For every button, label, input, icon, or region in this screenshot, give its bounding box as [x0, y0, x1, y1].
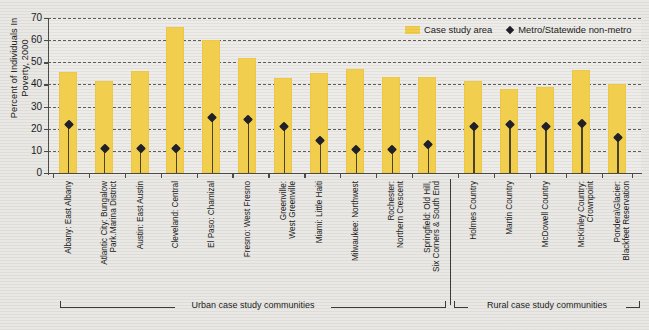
marker-stem — [320, 141, 321, 173]
x-tick-mark — [232, 173, 233, 178]
x-axis-line — [48, 173, 642, 174]
x-category-label: Milwaukee: Northwest — [351, 181, 360, 299]
bracket-cap — [445, 301, 446, 308]
marker-stem — [581, 123, 582, 173]
poverty-bar-chart-figure: Percent of Individuals In Poverty, 2000 … — [0, 0, 649, 330]
bracket-line — [454, 307, 468, 308]
group-separator — [450, 179, 451, 305]
legend-label-case-study-area: Case study area — [424, 24, 492, 35]
x-category-label: El Paso: Chamizal — [207, 181, 216, 299]
x-category-label: Cleveland: Central — [171, 181, 180, 299]
marker-stem — [248, 120, 249, 173]
x-tick-mark — [268, 173, 269, 178]
x-tick-mark — [304, 173, 305, 178]
x-category-label: Rochester: Northern Crescent — [387, 181, 406, 299]
bracket-line — [331, 307, 446, 308]
x-tick-mark — [458, 173, 459, 178]
y-tick-label: 50 — [12, 56, 42, 67]
x-tick-mark — [566, 173, 567, 178]
marker-stem — [617, 138, 618, 173]
x-tick-mark — [89, 173, 90, 178]
x-tick-mark — [161, 173, 162, 178]
group-bracket: Rural case study communities — [454, 300, 640, 314]
x-category-label: Austin: East Austin — [136, 181, 145, 299]
group-bracket: Urban case study communities — [60, 300, 446, 314]
x-tick-mark — [632, 173, 633, 178]
x-tick-mark — [340, 173, 341, 178]
x-category-label: McKinley Country: Crownpoint — [577, 181, 596, 299]
bracket-cap — [639, 301, 640, 308]
chart-legend: Case study area Metro/Statewide non-metr… — [405, 24, 631, 35]
marker-stem — [284, 127, 285, 174]
group-label: Urban case study communities — [179, 300, 327, 310]
x-category-label: McDowell Country — [541, 181, 550, 299]
gridline — [48, 40, 641, 41]
marker-stem — [545, 127, 546, 174]
legend-item-case-study-area: Case study area — [405, 24, 492, 35]
x-tick-mark — [494, 173, 495, 178]
diamond-marker-icon — [506, 25, 514, 33]
x-tick-mark — [53, 173, 54, 178]
bracket-line — [60, 307, 175, 308]
marker-stem — [509, 124, 510, 173]
x-category-label: Miami: Little Haiti — [315, 181, 324, 299]
marker-stem — [212, 118, 213, 173]
x-category-label: Greenville: West Greenville — [279, 181, 298, 299]
group-label: Rural case study communities — [472, 300, 622, 310]
x-tick-mark — [376, 173, 377, 178]
x-category-label: Albany: East Albany — [64, 181, 73, 299]
y-tick-label: 20 — [12, 123, 42, 134]
x-tick-mark — [602, 173, 603, 178]
x-tick-mark — [197, 173, 198, 178]
x-category-label: Holmes Country — [469, 181, 478, 299]
x-tick-mark — [530, 173, 531, 178]
gridline — [48, 62, 641, 63]
x-category-label: Pondera\Glacier: Blackfeet Reservation — [613, 181, 632, 299]
legend-item-metro-statewide-non-metro: Metro/Statewide non-metro — [506, 24, 631, 35]
x-tick-mark — [125, 173, 126, 178]
bracket-line — [626, 307, 640, 308]
y-tick-label: 0 — [12, 167, 42, 178]
x-category-label: Atlantic City: Bungalow Park.Marina Dist… — [100, 181, 119, 299]
legend-label-metro-statewide-non-metro: Metro/Statewide non-metro — [518, 24, 631, 35]
y-tick-label: 10 — [12, 145, 42, 156]
y-axis-line — [48, 18, 49, 175]
x-category-label: Fresno: West Fresno — [243, 181, 252, 299]
gridline — [48, 18, 641, 19]
x-category-label: Springfield: Old Hill, Six Corners & Sou… — [423, 181, 442, 299]
x-tick-mark — [412, 173, 413, 178]
marker-stem — [68, 124, 69, 173]
bar-swatch-icon — [405, 26, 420, 34]
y-tick-label: 60 — [12, 34, 42, 45]
y-tick-label: 40 — [12, 78, 42, 89]
y-tick-label: 70 — [12, 12, 42, 23]
x-category-label: Martin Country — [505, 181, 514, 299]
y-tick-label: 30 — [12, 101, 42, 112]
marker-stem — [473, 127, 474, 174]
